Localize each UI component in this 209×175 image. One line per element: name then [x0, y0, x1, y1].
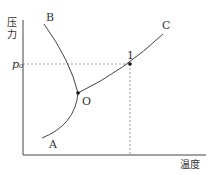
- y-axis-label-1: 压: [7, 18, 17, 28]
- curve-OB: [44, 24, 78, 93]
- curve-label-A: A: [49, 139, 57, 150]
- curve-label-C: C: [162, 20, 170, 31]
- point-label-1: 1: [127, 50, 134, 61]
- x-axis-label: 温度: [180, 160, 200, 170]
- point-1-dot: [128, 62, 132, 66]
- phase-diagram: [0, 0, 209, 175]
- point-label-O: O: [82, 96, 91, 107]
- curve-OA: [42, 93, 78, 138]
- curve-OC: [78, 34, 163, 93]
- p0-label: p₀: [12, 59, 23, 70]
- y-axis-label-2: 力: [7, 30, 17, 40]
- curve-label-B: B: [46, 12, 54, 23]
- triple-point-dot: [76, 91, 80, 95]
